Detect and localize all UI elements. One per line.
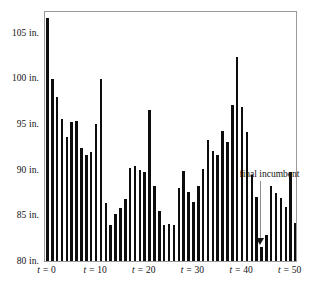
bar — [109, 225, 112, 262]
bar — [260, 247, 263, 261]
bar — [85, 155, 88, 261]
bar — [139, 170, 142, 261]
y-axis: 105 in.100 in.95 in.90 in.85 in.80 in. — [0, 0, 42, 297]
bars-layer — [45, 12, 296, 261]
x-tick-label: t = 20 — [132, 266, 155, 276]
bar — [75, 121, 78, 261]
plot-area — [44, 11, 297, 262]
bar — [153, 186, 156, 261]
bar — [187, 192, 190, 261]
bar — [221, 131, 224, 261]
bar — [182, 171, 185, 261]
y-tick-label: 100 in. — [12, 75, 39, 85]
bar — [90, 152, 93, 261]
bar — [114, 214, 117, 261]
bar — [197, 186, 200, 261]
y-tick-label: 85 in. — [17, 212, 39, 222]
bar — [129, 168, 132, 261]
bar — [46, 18, 49, 261]
bar — [66, 137, 69, 261]
bar — [241, 107, 244, 261]
bar — [143, 172, 146, 261]
y-tick-label: 90 in. — [17, 166, 39, 176]
bar — [236, 57, 239, 261]
bar — [70, 122, 73, 261]
bar — [95, 124, 98, 261]
bar — [134, 166, 137, 261]
y-tick-label: 95 in. — [17, 120, 39, 130]
bar — [294, 223, 297, 261]
bar — [251, 175, 254, 261]
bar — [148, 110, 151, 262]
bar — [100, 79, 103, 261]
bar — [178, 188, 181, 261]
bar — [212, 151, 215, 261]
bar — [265, 235, 268, 261]
x-axis: t = 0t = 10t = 20t = 30t = 40t = 50 — [0, 266, 329, 286]
bar — [202, 169, 205, 261]
x-tick-label: t = 30 — [181, 266, 204, 276]
bar — [173, 225, 176, 261]
bar — [216, 155, 219, 261]
bar — [168, 224, 171, 261]
bar — [124, 199, 127, 261]
bar — [119, 208, 122, 261]
bar — [207, 140, 210, 261]
bar — [231, 105, 234, 261]
x-tick-label: t = 0 — [37, 266, 56, 276]
bar — [275, 193, 278, 261]
bar-chart: 105 in.100 in.95 in.90 in.85 in.80 in. t… — [0, 0, 329, 297]
bar — [246, 132, 249, 261]
bar — [289, 172, 292, 261]
bar — [163, 225, 166, 262]
bar — [158, 211, 161, 261]
bar — [51, 79, 54, 261]
x-tick-label: t = 10 — [83, 266, 106, 276]
bar — [80, 148, 83, 261]
bar — [56, 97, 59, 261]
bar — [280, 198, 283, 261]
x-tick-label: t = 40 — [229, 266, 252, 276]
bar — [61, 119, 64, 261]
bar — [285, 207, 288, 261]
bar — [192, 202, 195, 261]
bar — [255, 197, 258, 261]
bar — [226, 142, 229, 261]
y-tick-label: 105 in. — [12, 29, 39, 39]
bar — [105, 203, 108, 261]
bar — [270, 186, 273, 261]
x-tick-label: t = 50 — [278, 266, 301, 276]
